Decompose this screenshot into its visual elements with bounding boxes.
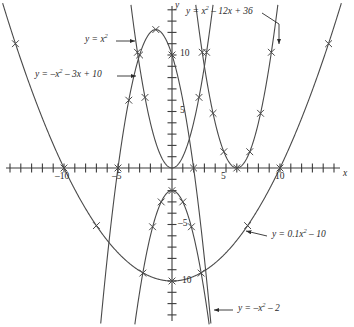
marker-4-2 (158, 199, 165, 206)
y-axis-label: y (175, 1, 179, 11)
x-tick-label-5: 5 (221, 172, 226, 182)
y-tick-label-neg10: 10 (182, 276, 192, 286)
callout-arrows (116, 13, 279, 310)
marker-2-2 (220, 148, 227, 155)
x-tick-label-10: 10 (275, 172, 285, 182)
label-x-squared-12x-36: y = x2 – 12x + 36 (186, 7, 253, 17)
marker-3-2 (93, 222, 100, 229)
x-axis-label: x (343, 169, 347, 179)
y-tick-label-neg5: –5 (178, 219, 188, 229)
marker-3-6 (325, 40, 332, 47)
marker-4-4 (179, 199, 186, 206)
label-point-one-x-squared-10: y = 0.1x2 – 10 (272, 230, 326, 240)
label-x-squared-12x-36-text: y = x2 – 12x + 36 (186, 6, 253, 16)
label-neg-x-squared-2-text: y = –x2 – 2 (238, 303, 280, 313)
x-tick-label-neg5: –5 (112, 172, 122, 182)
label-x-squared: y = x2 (85, 35, 108, 45)
coordinate-plane-svg (0, 0, 354, 327)
marker-3-0 (12, 40, 19, 47)
x-tick-label-neg10: –10 (55, 172, 69, 182)
label-neg-x-squared-2: y = –x2 – 2 (238, 304, 280, 314)
marker-2-4 (246, 148, 253, 155)
label-x-squared-text: y = x2 (85, 34, 108, 44)
label-neg-x-squared-3x-10-text: y = –x2 – 3x + 10 (35, 69, 102, 79)
label-neg-x-squared-3x-10: y = –x2 – 3x + 10 (35, 70, 102, 80)
axis-lines (6, 6, 340, 321)
graph-figure: x y –10 –5 5 10 10 5 –5 10 y = x2 y = –x… (0, 0, 354, 327)
y-tick-label-10: 10 (180, 49, 190, 59)
curve-2 (196, 5, 278, 168)
marker-3-4 (244, 222, 251, 229)
label-point-one-x-squared-10-text: y = 0.1x2 – 10 (272, 229, 326, 239)
marker-1-2 (136, 52, 143, 59)
y-tick-label-5: 5 (180, 106, 185, 116)
arrow-point-one-x-squared-10 (246, 231, 267, 236)
